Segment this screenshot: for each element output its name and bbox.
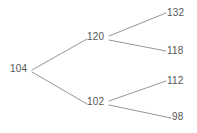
node-label-leaf-upper-bottom: 118 — [167, 46, 184, 56]
edge-inner-upper-to-leaf-118 — [109, 40, 166, 51]
node-label-inner-lower: 102 — [87, 97, 104, 107]
node-label-leaf-upper-top: 132 — [167, 8, 184, 18]
tree-edges-group — [0, 0, 197, 133]
edge-root-to-inner-lower — [32, 72, 87, 104]
tree-diagram: 104 120 102 132 118 112 98 — [0, 0, 197, 133]
edge-inner-lower-to-leaf-98 — [109, 105, 171, 118]
node-label-inner-upper: 120 — [87, 32, 104, 42]
node-label-root: 104 — [10, 64, 27, 74]
edge-root-to-inner-upper — [32, 39, 87, 70]
edge-inner-upper-to-leaf-132 — [109, 13, 166, 36]
edge-inner-lower-to-leaf-112 — [109, 81, 166, 101]
node-label-leaf-lower-top: 112 — [167, 76, 184, 86]
node-label-leaf-lower-bottom: 98 — [172, 112, 184, 122]
